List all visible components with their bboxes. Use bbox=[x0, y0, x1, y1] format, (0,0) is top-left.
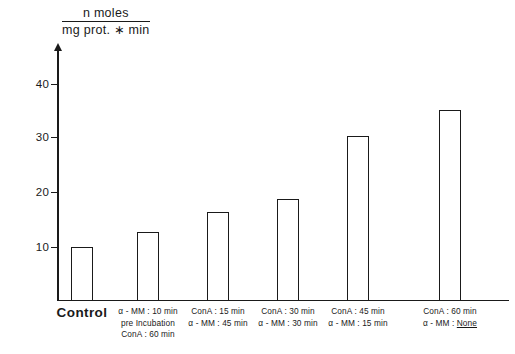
y-axis-tick-label-10: 10 bbox=[23, 241, 49, 253]
y-axis-unit-numerator: n moles bbox=[62, 6, 150, 22]
bar-cona-15 bbox=[207, 212, 229, 300]
y-axis-unit-denominator: mg prot. ∗ min bbox=[62, 22, 150, 37]
y-axis-tick-label-40: 40 bbox=[23, 78, 49, 90]
y-axis-tick-20 bbox=[51, 192, 58, 193]
bar-chart-figure: n moles mg prot. ∗ min 40 30 20 10 Contr… bbox=[0, 0, 515, 354]
category-label-5-line1: ConA : 45 min bbox=[313, 306, 403, 318]
category-label-2-line3: ConA : 60 min bbox=[103, 329, 193, 341]
y-axis-tick-label-30: 30 bbox=[23, 131, 49, 143]
category-label-6-line1: ConA : 60 min bbox=[405, 306, 495, 318]
bar-control bbox=[71, 247, 93, 300]
category-label-6-line2: α - MM : None bbox=[405, 318, 495, 330]
bar-amm-pre-incub bbox=[137, 232, 159, 300]
bar-cona-30 bbox=[277, 199, 299, 300]
y-axis-unit-label: n moles mg prot. ∗ min bbox=[62, 6, 150, 37]
bar-cona-45 bbox=[347, 136, 369, 300]
category-label-5-line2: α - MM : 15 min bbox=[313, 318, 403, 330]
y-axis-tick-10 bbox=[51, 247, 58, 248]
category-label-6-line2-prefix: α - MM : bbox=[423, 318, 457, 328]
category-label-cona-45: ConA : 45 min α - MM : 15 min bbox=[313, 306, 403, 329]
category-label-6-none-underlined: None bbox=[457, 318, 477, 328]
y-axis-tick-40 bbox=[51, 84, 58, 85]
bar-cona-60 bbox=[439, 110, 461, 300]
category-label-cona-60: ConA : 60 min α - MM : None bbox=[405, 306, 495, 329]
y-axis-tick-label-20: 20 bbox=[23, 186, 49, 198]
y-axis-tick-30 bbox=[51, 137, 58, 138]
y-axis-line bbox=[57, 48, 59, 301]
